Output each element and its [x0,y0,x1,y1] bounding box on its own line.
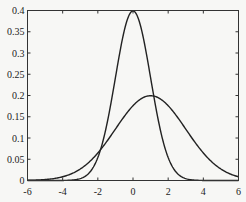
x-tick-label: 4 [201,186,206,197]
plot-frame [28,11,239,181]
y-tick-label: 0.25 [7,69,25,80]
x-tick-label: -4 [58,186,66,197]
y-tick-label: 0.05 [7,154,25,165]
series-line-1 [28,96,239,181]
y-tick-label: 0.2 [12,90,25,101]
chart-svg: 00.050.10.150.20.250.30.350.4 -6-4-20246 [0,0,246,202]
x-tick-label: -2 [94,186,102,197]
y-tick-label: 0.1 [12,133,25,144]
y-tick-label: 0.4 [12,5,25,16]
x-tick-label: -6 [23,186,31,197]
chart-figure: 00.050.10.150.20.250.30.350.4 -6-4-20246 [0,0,246,202]
plot-curves [28,11,239,181]
x-axis-labels: -6-4-20246 [23,186,241,197]
x-tick-label: 2 [166,186,171,197]
y-tick-label: 0 [20,175,25,186]
x-tick-label: 6 [236,186,241,197]
y-tick-label: 0.35 [7,26,25,37]
series-line-0 [28,11,239,181]
y-axis-labels: 00.050.10.150.20.250.30.350.4 [7,5,25,186]
axis-ticks [28,11,239,181]
y-tick-label: 0.3 [12,48,25,59]
y-tick-label: 0.15 [7,111,25,122]
x-tick-label: 0 [131,186,136,197]
